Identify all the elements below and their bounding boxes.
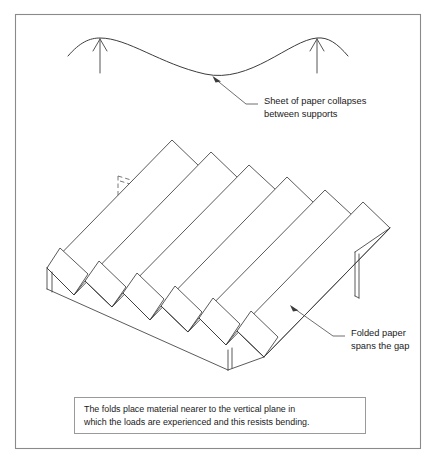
folded-label-line1: Folded paper — [351, 328, 406, 338]
caption-line2: which the loads are experienced and this… — [83, 417, 309, 427]
sagging-paper-curve — [68, 38, 348, 76]
folded-paper-diagram: Folded paper spans the gap — [47, 140, 409, 370]
caption-line1: The folds place material nearer to the v… — [84, 404, 295, 414]
support-arrow-left — [93, 39, 107, 73]
sag-label-line1: Sheet of paper collapses — [264, 96, 367, 106]
sag-label-line2: between supports — [264, 109, 338, 119]
figure-container: Sheet of paper collapses between support… — [0, 0, 436, 465]
sag-label-leader — [213, 76, 259, 104]
technical-illustration: Sheet of paper collapses between support… — [0, 0, 436, 465]
sagging-sheet-diagram: Sheet of paper collapses between support… — [68, 38, 367, 119]
caption-box: The folds place material nearer to the v… — [75, 398, 366, 434]
support-arrow-right — [310, 39, 324, 73]
folded-label-line2: spans the gap — [351, 341, 409, 351]
